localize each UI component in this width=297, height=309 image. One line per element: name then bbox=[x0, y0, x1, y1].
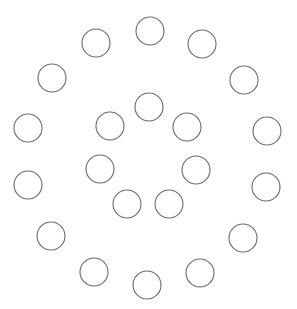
outer-circle bbox=[136, 17, 164, 45]
inner-ring bbox=[86, 93, 210, 218]
outer-ring bbox=[14, 17, 281, 299]
outer-circle bbox=[37, 222, 65, 250]
outer-circle bbox=[186, 259, 214, 287]
outer-circle bbox=[188, 30, 216, 58]
inner-circle bbox=[113, 190, 141, 218]
outer-circle bbox=[38, 64, 66, 92]
inner-circle bbox=[86, 155, 114, 183]
outer-circle bbox=[229, 224, 257, 252]
inner-circle bbox=[135, 93, 163, 121]
inner-circle bbox=[155, 190, 183, 218]
inner-circle bbox=[182, 156, 210, 184]
inner-circle bbox=[96, 112, 124, 140]
outer-circle bbox=[14, 114, 42, 142]
outer-circle bbox=[230, 66, 258, 94]
circle-diagram bbox=[0, 0, 297, 309]
outer-circle bbox=[80, 258, 108, 286]
outer-circle bbox=[133, 271, 161, 299]
outer-circle bbox=[14, 171, 42, 199]
inner-circle bbox=[173, 113, 201, 141]
outer-circle bbox=[253, 117, 281, 145]
outer-circle bbox=[252, 173, 280, 201]
diagram-svg bbox=[0, 0, 297, 309]
outer-circle bbox=[82, 29, 110, 57]
